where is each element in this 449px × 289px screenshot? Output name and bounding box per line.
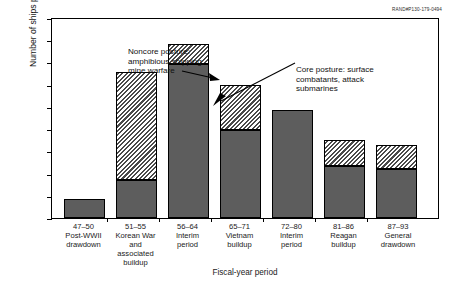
bar-segment-core xyxy=(116,180,157,218)
bar-group-72-80 xyxy=(272,110,313,218)
x-tick-mark-5 xyxy=(315,218,316,222)
y-tick-mark-80 xyxy=(47,130,52,131)
annotation-core-line2: combatants, attack xyxy=(296,75,374,85)
annotation-noncore-line2: amphibious shipping, xyxy=(128,57,204,67)
x-axis-labels: 47–50 Post-WWII drawdown 51–55 Korean Wa… xyxy=(51,223,439,269)
annotation-core: Core posture: surface combatants, attack… xyxy=(296,65,374,94)
chart-figure: RAND#P130-179-0494 Number of ships procu… xyxy=(0,0,449,289)
x-axis-title: Fiscal-year period xyxy=(51,268,439,277)
bar-segment-noncore xyxy=(324,140,365,166)
y-tick-mark-60 xyxy=(47,152,52,153)
y-tick-mark-140 xyxy=(47,63,52,64)
x-tick-mark-3 xyxy=(211,218,212,222)
bar-segment-core xyxy=(324,166,365,218)
x-tick-mark-2 xyxy=(159,218,160,222)
x-label-87-93: 87–93 General drawdown xyxy=(363,223,433,250)
y-tick-mark-160 xyxy=(47,41,52,42)
bar-segment-core xyxy=(168,64,209,218)
bar-group-51-55 xyxy=(116,72,157,218)
bar-group-81-86 xyxy=(324,140,365,218)
bar-segment-noncore xyxy=(116,72,157,180)
x-label-name-line4: buildup xyxy=(103,259,168,268)
annotation-core-line1: Core posture: surface xyxy=(296,65,374,75)
y-tick-mark-0 xyxy=(47,219,52,220)
x-tick-mark-1 xyxy=(107,218,108,222)
x-tick-mark-4 xyxy=(263,218,264,222)
annotation-core-arrow xyxy=(207,63,297,111)
source-credit-label: RAND#P130-179-0494 xyxy=(392,7,442,12)
bar-group-47-50 xyxy=(64,199,105,218)
x-tick-mark-6 xyxy=(367,218,368,222)
y-tick-mark-180 xyxy=(47,19,52,20)
bar-group-87-93 xyxy=(376,145,417,218)
y-tick-mark-40 xyxy=(47,175,52,176)
bar-segment-core xyxy=(272,110,313,218)
annotation-core-line3: submarines xyxy=(296,84,374,94)
bar-segment-noncore xyxy=(376,145,417,169)
y-tick-mark-120 xyxy=(47,86,52,87)
bar-segment-core xyxy=(64,199,105,218)
y-tick-mark-100 xyxy=(47,108,52,109)
y-tick-mark-20 xyxy=(47,197,52,198)
bar-segment-core xyxy=(220,130,261,218)
bar-segment-core xyxy=(376,169,417,218)
x-label-name-line2: drawdown xyxy=(363,241,433,250)
annotation-noncore-line1: Noncore posture: xyxy=(128,47,204,57)
y-axis-title: Number of ships procured xyxy=(28,0,38,67)
plot-area: Number of ships procured 0 20 40 60 80 1… xyxy=(51,18,439,219)
